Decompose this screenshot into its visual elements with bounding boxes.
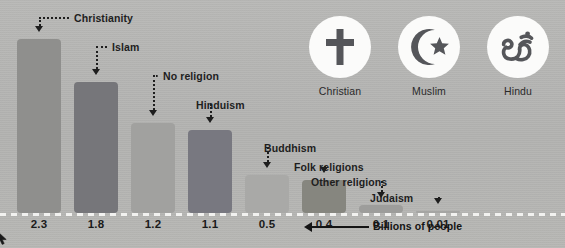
callout-arrowhead	[263, 162, 271, 168]
axis-dashed-line	[0, 213, 565, 216]
legend-label-christian: Christian	[295, 85, 385, 97]
bar-other-religions[interactable]	[359, 205, 403, 213]
callout-label-buddhism: Buddhism	[264, 142, 316, 154]
legend-label-hindu: Hindu	[473, 85, 563, 97]
callout-arrowhead	[149, 110, 157, 116]
bar-hinduism[interactable]	[188, 130, 232, 213]
bar-no-religion[interactable]	[131, 123, 175, 213]
callout-label-christianity: Christianity	[74, 12, 133, 24]
value-label-christianity: 2.3	[17, 218, 61, 230]
legend-label-muslim: Muslim	[384, 85, 474, 97]
value-label-no-religion: 1.2	[131, 218, 175, 230]
axis-annotation-label: Billions of people	[373, 220, 462, 232]
om-icon	[487, 16, 549, 78]
callout-label-no-religion: No religion	[163, 70, 219, 82]
callout-label-other-religions: Other religions	[311, 176, 387, 188]
bar-buddhism[interactable]	[245, 175, 289, 213]
callout-arrowhead	[35, 26, 43, 32]
callout-arrowhead	[206, 117, 214, 123]
value-label-islam: 1.8	[74, 218, 118, 230]
cross-icon	[309, 16, 371, 78]
infographic-canvas: 2.31.81.21.10.50.40.10.01 ChristianityIs…	[0, 0, 565, 248]
value-label-hinduism: 1.1	[188, 218, 232, 230]
callout-label-islam: Islam	[112, 41, 139, 53]
mouse-cursor-icon	[0, 231, 8, 245]
cross-icon	[323, 27, 357, 67]
crescent-star-icon	[408, 27, 450, 67]
crescent-star-icon	[398, 16, 460, 78]
value-label-buddhism: 0.5	[245, 218, 289, 230]
bar-christianity[interactable]	[17, 39, 61, 213]
callout-arrowhead	[434, 198, 442, 204]
axis-annotation-line	[311, 226, 369, 228]
callout-arrowhead	[320, 167, 328, 173]
bar-islam[interactable]	[74, 82, 118, 213]
callout-arrowhead	[92, 69, 100, 75]
callout-label-folk-religions: Folk religions	[294, 161, 364, 173]
callout-label-hinduism: Hinduism	[196, 99, 245, 111]
callout-label-judaism: Judaism	[370, 192, 413, 204]
om-icon	[497, 27, 539, 67]
